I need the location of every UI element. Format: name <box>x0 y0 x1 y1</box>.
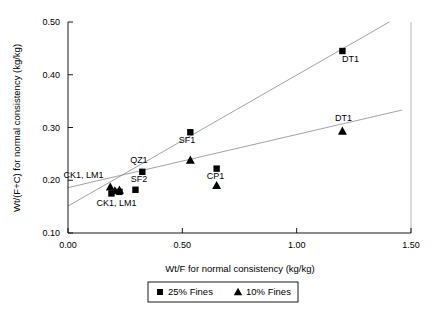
square-icon <box>157 289 163 295</box>
point-label: SF1 <box>179 135 196 145</box>
point-label: SF2 <box>131 174 148 184</box>
scatter-chart-figure: 0.000.501.001.50 0.100.200.300.400.50 CK… <box>0 0 440 315</box>
plot-area: 0.000.501.001.50 0.100.200.300.400.50 CK… <box>42 17 419 250</box>
x-tick-label: 1.50 <box>402 240 420 250</box>
y-tick-labels: 0.100.200.300.400.50 <box>42 17 60 238</box>
point-label: CP1 <box>207 171 225 181</box>
x-tick-label: 1.00 <box>288 240 306 250</box>
point-annotations: CK1, LM1CK1, LM1QZ1SF2SF1CP1DT1DT1 <box>63 54 358 207</box>
data-point-10-fines <box>338 127 347 135</box>
point-label: DT1 <box>335 113 352 123</box>
y-tick-label: 0.40 <box>42 70 60 80</box>
x-axis-title: Wt/F for normal consistency (kg/kg) <box>165 263 314 274</box>
point-label: QZ1 <box>130 155 148 165</box>
legend-label: 25% Fines <box>168 286 213 297</box>
chart-canvas: 0.000.501.001.50 0.100.200.300.400.50 CK… <box>0 0 440 315</box>
x-tick-label: 0.00 <box>59 240 77 250</box>
y-tick-label: 0.20 <box>42 175 60 185</box>
point-label: DT1 <box>342 54 359 64</box>
y-axis-title: Wt/(F+C) for normal consistency (kg/kg) <box>11 44 22 212</box>
legend-label: 10% Fines <box>246 286 291 297</box>
y-tick-label: 0.30 <box>42 123 60 133</box>
x-tick-labels: 0.000.501.001.50 <box>59 240 420 250</box>
data-point-25-fines <box>132 187 138 193</box>
data-point-10-fines <box>212 181 221 189</box>
x-tick-label: 0.50 <box>174 240 192 250</box>
point-label: CK1, LM1 <box>63 170 103 180</box>
point-label: CK1, LM1 <box>97 198 137 208</box>
chart-legend: 25% Fines10% Fines <box>148 282 298 302</box>
y-tick-label: 0.10 <box>42 228 60 238</box>
y-tick-label: 0.50 <box>42 17 60 27</box>
